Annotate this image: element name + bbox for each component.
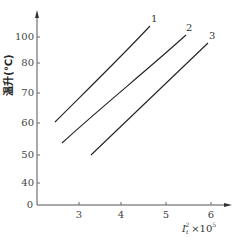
series-line-2 xyxy=(62,35,186,143)
y-tick-label: 70 xyxy=(21,87,34,98)
series-label-1: 1 xyxy=(151,13,157,24)
y-axis-arrow-icon xyxy=(35,10,39,18)
y-tick-label: 40 xyxy=(21,177,34,188)
x-tick-label: 3 xyxy=(76,209,82,220)
y-axis-label: 温升(℃) xyxy=(2,54,14,95)
y-tick-label: 60 xyxy=(21,117,34,128)
line-chart: 100 80 70 60 50 40 0 3 4 5 6 温升(℃) It2×1… xyxy=(0,0,241,238)
y-tick-label: 50 xyxy=(21,149,34,160)
series-label-2: 2 xyxy=(186,22,192,33)
y-tick-label: 80 xyxy=(21,57,34,68)
series-line-3 xyxy=(91,43,208,155)
x-axis-arrow-icon xyxy=(224,203,232,207)
x-tick-label: 5 xyxy=(163,209,169,220)
y-tick-label: 100 xyxy=(15,31,34,42)
x-axis-label: It2×105 xyxy=(181,221,216,235)
x-tick-label: 4 xyxy=(118,209,124,220)
series-label-3: 3 xyxy=(209,30,215,41)
x-tick-label: 6 xyxy=(208,209,214,220)
y-tick-label: 0 xyxy=(27,199,33,210)
